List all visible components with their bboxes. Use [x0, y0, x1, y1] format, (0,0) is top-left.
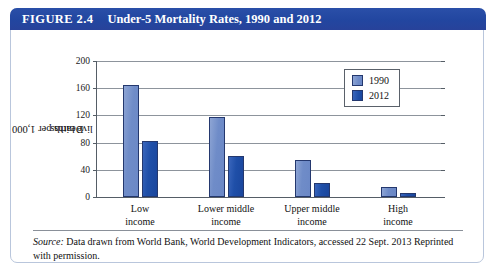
y-axis-tick-label: 80: [81, 138, 91, 148]
figure-header: FIGURE 2.4 Under-5 Mortality Rates, 1990…: [10, 8, 486, 30]
x-axis-label-line: Lower middle: [198, 203, 254, 214]
legend-label-1990: 1990: [369, 75, 389, 86]
x-axis-label-line: income: [125, 216, 154, 227]
legend-item-2012: 2012: [352, 90, 389, 101]
y-axis-tick: [93, 197, 97, 198]
source-divider: [33, 230, 463, 231]
y-axis-tick-label: 40: [81, 165, 91, 175]
y-axis-tick-label: 160: [76, 83, 90, 93]
bar-1990-low-income: [123, 85, 139, 197]
y-axis-title: Deaths per 1,000 live births: [45, 61, 75, 198]
bar-group: [97, 61, 183, 197]
x-axis-tick-label: Lowincome: [125, 203, 154, 228]
chart-legend: 1990 2012: [344, 69, 400, 107]
bar-group: [269, 61, 355, 197]
x-axis-label-line: Upper middle: [284, 203, 339, 214]
bar-2012-upper-middle-income: [314, 183, 330, 197]
x-axis-label-line: income: [211, 216, 240, 227]
x-axis-label-line: income: [297, 216, 326, 227]
plot-frame: 04080120160200 LowincomeLower middleinco…: [96, 61, 441, 198]
figure-container: FIGURE 2.4 Under-5 Mortality Rates, 1990…: [10, 8, 484, 263]
figure-number: FIGURE 2.4: [22, 12, 93, 27]
bar-1990-lower-middle-income: [209, 117, 225, 197]
y-axis-tick-right: [441, 143, 445, 144]
y-axis-tick-right: [441, 197, 445, 198]
bar-1990-high-income: [381, 187, 397, 197]
y-axis-tick-label: 0: [85, 192, 90, 202]
y-axis-tick-right: [441, 61, 445, 62]
source-note: Source: Data drawn from World Bank, Worl…: [33, 235, 471, 262]
bar-group: [183, 61, 269, 197]
x-axis-tick-label: Upper middleincome: [284, 203, 339, 228]
legend-item-1990: 1990: [352, 75, 389, 86]
source-label: Source:: [33, 236, 64, 247]
source-text: Data drawn from World Bank, World Develo…: [33, 236, 453, 261]
bar-1990-upper-middle-income: [295, 160, 311, 197]
bar-2012-high-income: [400, 193, 416, 197]
y-axis-tick-right: [441, 170, 445, 171]
chart-area: Deaths per 1,000 live births 04080120160…: [11, 31, 485, 219]
bar-2012-lower-middle-income: [228, 156, 244, 197]
x-axis-tick-label: Lower middleincome: [198, 203, 254, 228]
x-axis-label-line: income: [383, 216, 412, 227]
y-axis-tick-right: [441, 88, 445, 89]
legend-label-2012: 2012: [369, 90, 389, 101]
legend-swatch-1990-icon: [352, 75, 363, 86]
figure-title: Under-5 Mortality Rates, 1990 and 2012: [107, 12, 321, 27]
x-axis-label-line: High: [388, 203, 408, 214]
bar-2012-low-income: [142, 141, 158, 197]
y-axis-tick-right: [441, 115, 445, 116]
y-axis-tick-label: 120: [76, 110, 90, 120]
x-axis-label-line: Low: [131, 203, 149, 214]
y-axis-tick-label: 200: [76, 56, 90, 66]
legend-swatch-2012-icon: [352, 90, 363, 101]
x-axis-tick-label: Highincome: [383, 203, 412, 228]
